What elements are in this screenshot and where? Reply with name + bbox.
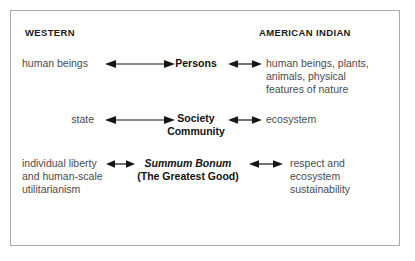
column-heading-western: WESTERN — [25, 27, 75, 38]
row-summum-left-label-line2: and human-scale — [22, 170, 103, 183]
row-summum-right-label-line3: sustainability — [290, 183, 350, 196]
row-summum-left-label-line3: utilitarianism — [22, 183, 80, 196]
row-society-left-label: state — [48, 113, 94, 126]
row-summum-right-label-line2: ecosystem — [290, 170, 340, 183]
double-headed-arrow-icon — [105, 58, 175, 70]
double-headed-arrow-icon — [249, 158, 283, 170]
row-summum-right-label-line1: respect and — [290, 157, 345, 170]
double-headed-arrow-icon — [228, 58, 262, 70]
row-summum-center-term: Summum Bonum — [136, 157, 240, 170]
double-headed-arrow-icon — [106, 158, 135, 170]
row-society-center-subterm: Community — [157, 125, 235, 138]
row-society-right-label: ecosystem — [266, 113, 316, 126]
row-summum-left-label-line1: individual liberty — [22, 157, 97, 170]
row-persons-left-label: human beings — [22, 57, 88, 70]
row-society-center-term: Society — [167, 112, 225, 125]
row-persons-right-label-line3: features of nature — [266, 83, 348, 96]
row-summum-center-subterm: (The Greatest Good) — [131, 170, 245, 183]
double-headed-arrow-icon — [228, 114, 262, 126]
column-heading-american-indian: AMERICAN INDIAN — [259, 27, 351, 38]
row-persons-right-label-line1: human beings, plants, — [266, 57, 369, 70]
diagram-canvas: WESTERN AMERICAN INDIAN human beings Per… — [0, 0, 415, 261]
row-persons-center-term: Persons — [167, 57, 225, 70]
row-persons-right-label-line2: animals, physical — [266, 70, 346, 83]
